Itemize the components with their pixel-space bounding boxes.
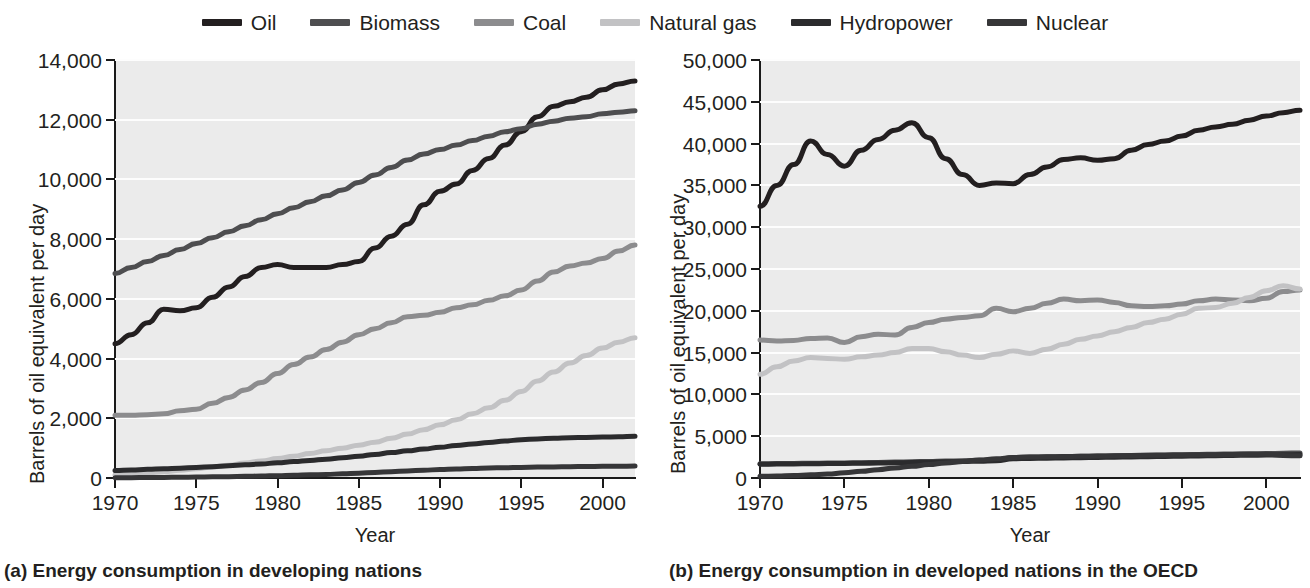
y-tick-label: 15,000: [683, 342, 747, 363]
y-tick-mark: [751, 184, 760, 186]
x-tick-mark: [1012, 478, 1014, 488]
x-tick-mark: [1265, 478, 1267, 488]
y-tick-mark: [751, 268, 760, 270]
x-tick-label: 1975: [821, 492, 868, 513]
y-tick-label: 6,000: [49, 288, 102, 309]
x-axis-title: Year: [115, 524, 635, 547]
y-tick-mark: [106, 358, 115, 360]
y-tick-mark: [751, 435, 760, 437]
chart-legend: OilBiomassCoalNatural gasHydropowerNucle…: [0, 0, 1310, 44]
x-tick-mark: [759, 478, 761, 488]
series-layer: [115, 60, 635, 478]
chart-panel-b: Barrels of oil equivalent per day 05,000…: [655, 44, 1310, 588]
y-tick-mark: [751, 310, 760, 312]
panel-caption-a: (a) Energy consumption in developing nat…: [4, 560, 422, 582]
y-tick-label: 10,000: [683, 384, 747, 405]
y-axis-title-a: Barrels of oil equivalent per day: [26, 204, 49, 484]
plot-area-b: 05,00010,00015,00020,00025,00030,00035,0…: [760, 60, 1300, 478]
y-tick-label: 30,000: [683, 217, 747, 238]
x-tick-mark: [520, 478, 522, 488]
legend-swatch-icon: [474, 19, 514, 26]
legend-swatch-icon: [310, 19, 350, 26]
x-tick-mark: [1097, 478, 1099, 488]
y-tick-label: 45,000: [683, 91, 747, 112]
legend-label: Coal: [523, 12, 566, 33]
x-tick-label: 1995: [498, 492, 545, 513]
x-tick-label: 1995: [1159, 492, 1206, 513]
x-tick-label: 1985: [990, 492, 1037, 513]
legend-label: Nuclear: [1036, 12, 1108, 33]
y-tick-mark: [106, 298, 115, 300]
series-line-oil: [760, 110, 1300, 206]
x-tick-mark: [602, 478, 604, 488]
x-tick-label: 1975: [173, 492, 220, 513]
y-tick-label: 12,000: [38, 109, 102, 130]
y-tick-mark: [106, 119, 115, 121]
y-tick-label: 10,000: [38, 169, 102, 190]
legend-swatch-icon: [987, 19, 1027, 26]
x-tick-mark: [928, 478, 930, 488]
x-tick-mark: [439, 478, 441, 488]
legend-item-oil: Oil: [202, 12, 277, 33]
y-tick-label: 50,000: [683, 50, 747, 71]
y-tick-label: 25,000: [683, 259, 747, 280]
y-tick-mark: [751, 226, 760, 228]
legend-label: Biomass: [359, 12, 440, 33]
x-tick-mark: [843, 478, 845, 488]
x-tick-label: 2000: [579, 492, 626, 513]
series-line-coal: [760, 290, 1300, 343]
legend-item-coal: Coal: [474, 12, 566, 33]
x-tick-label: 1990: [1074, 492, 1121, 513]
plot-area-a: 02,0004,0006,0008,00010,00012,00014,0001…: [115, 60, 635, 478]
legend-swatch-icon: [791, 19, 831, 26]
y-tick-label: 14,000: [38, 50, 102, 71]
y-tick-mark: [751, 59, 760, 61]
x-tick-label: 2000: [1243, 492, 1290, 513]
y-tick-label: 20,000: [683, 300, 747, 321]
x-tick-label: 1970: [737, 492, 784, 513]
legend-item-natural-gas: Natural gas: [600, 12, 756, 33]
y-tick-label: 5,000: [694, 426, 747, 447]
x-tick-mark: [1181, 478, 1183, 488]
series-layer: [760, 60, 1300, 478]
panel-caption-b: (b) Energy consumption in developed nati…: [669, 560, 1198, 582]
x-tick-label: 1985: [335, 492, 382, 513]
y-tick-label: 40,000: [683, 133, 747, 154]
y-tick-mark: [751, 352, 760, 354]
x-tick-mark: [277, 478, 279, 488]
legend-item-biomass: Biomass: [310, 12, 440, 33]
series-line-coal: [115, 245, 635, 415]
legend-swatch-icon: [600, 19, 640, 26]
y-tick-mark: [751, 101, 760, 103]
legend-swatch-icon: [202, 19, 242, 26]
legend-item-nuclear: Nuclear: [987, 12, 1108, 33]
x-tick-label: 1990: [417, 492, 464, 513]
x-tick-label: 1980: [905, 492, 952, 513]
y-tick-label: 4,000: [49, 348, 102, 369]
legend-label: Natural gas: [649, 12, 756, 33]
x-tick-mark: [358, 478, 360, 488]
x-tick-label: 1980: [254, 492, 301, 513]
y-tick-label: 8,000: [49, 229, 102, 250]
y-tick-label: 35,000: [683, 175, 747, 196]
y-tick-label: 2,000: [49, 408, 102, 429]
y-tick-mark: [106, 238, 115, 240]
y-tick-mark: [751, 143, 760, 145]
legend-label: Hydropower: [840, 12, 953, 33]
y-tick-mark: [106, 417, 115, 419]
chart-panel-a: Barrels of oil equivalent per day 02,000…: [0, 44, 655, 588]
y-tick-mark: [106, 178, 115, 180]
y-tick-label: 0: [90, 468, 102, 489]
x-tick-label: 1970: [92, 492, 139, 513]
y-tick-mark: [751, 393, 760, 395]
legend-label: Oil: [251, 12, 277, 33]
legend-item-hydropower: Hydropower: [791, 12, 953, 33]
y-tick-label: 0: [735, 468, 747, 489]
x-axis-title: Year: [760, 524, 1300, 547]
y-tick-mark: [106, 59, 115, 61]
